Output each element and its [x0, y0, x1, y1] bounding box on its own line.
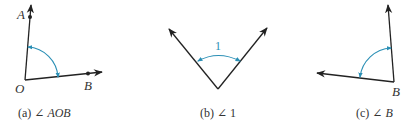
caption-a-prefix: (a) ∠: [18, 106, 47, 120]
caption-c: (c) ∠ B: [356, 106, 393, 121]
ray-right: [218, 28, 267, 89]
figure-b-angle-1: [169, 28, 267, 89]
angle-arc-1: [198, 56, 240, 62]
label-point-o: O: [15, 81, 24, 97]
caption-b: (b) ∠ 1: [200, 106, 236, 121]
caption-b-prefix: (b) ∠: [200, 106, 230, 120]
label-point-b: B: [84, 78, 92, 94]
figure-c-angle-b: [317, 5, 394, 82]
caption-b-name: 1: [230, 106, 236, 120]
ray-b-left: [317, 73, 394, 82]
point-b-dot: [86, 72, 90, 76]
label-point-a: A: [17, 7, 25, 23]
figure-a-angle-aob: [25, 5, 102, 80]
caption-a-name: AOB: [47, 106, 70, 120]
label-angle-1: 1: [215, 39, 221, 54]
ray-left: [169, 29, 218, 89]
angle-arc-b: [360, 48, 391, 77]
caption-a: (a) ∠ AOB: [18, 106, 71, 121]
angle-arc-aob: [28, 47, 58, 77]
caption-c-prefix: (c) ∠: [356, 106, 385, 120]
point-a-dot: [28, 15, 32, 19]
caption-c-name: B: [385, 106, 392, 120]
label-vertex-b: B: [392, 84, 400, 100]
ray-b-up: [388, 5, 394, 82]
